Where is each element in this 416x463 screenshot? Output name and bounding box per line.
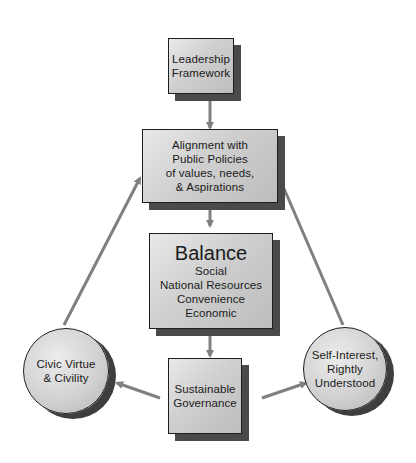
civic-line-1: Civic Virtue (36, 357, 95, 371)
balance-box: Balance Social National Resources Conven… (149, 233, 273, 329)
balance-line-4: Economic (185, 306, 236, 320)
balance-title: Balance (175, 242, 247, 264)
alignment-box: Alignment with Public Policies of values… (142, 129, 278, 203)
arrow-sustainable-to-civic (117, 383, 160, 398)
arrow-civic-to-alignment (64, 178, 140, 325)
alignment-line-2: Public Policies (172, 152, 248, 166)
self-interest-line-1: Self-Interest, (312, 348, 379, 362)
alignment-line-3: of values, needs, (166, 166, 255, 180)
sustainable-governance-box: Sustainable Governance (168, 358, 242, 434)
sustainable-line-2: Governance (173, 396, 237, 410)
civic-line-2: & Civility (43, 371, 88, 385)
arrow-self-to-alignment (279, 177, 343, 325)
self-interest-circle: Self-Interest, Rightly Understood (303, 327, 387, 411)
balance-line-2: National Resources (160, 278, 262, 292)
balance-line-1: Social (195, 264, 227, 278)
leadership-framework-box: Leadership Framework (168, 38, 234, 94)
leadership-line-1: Leadership (172, 52, 230, 66)
arrow-sustainable-to-self (262, 383, 306, 398)
balance-line-3: Convenience (177, 292, 245, 306)
self-interest-line-3: Understood (315, 376, 375, 390)
leadership-line-2: Framework (172, 66, 230, 80)
sustainable-line-1: Sustainable (174, 382, 235, 396)
alignment-line-4: & Aspirations (176, 180, 244, 194)
civic-virtue-circle: Civic Virtue & Civility (23, 328, 109, 414)
alignment-line-1: Alignment with (172, 138, 248, 152)
self-interest-line-2: Rightly (327, 362, 363, 376)
